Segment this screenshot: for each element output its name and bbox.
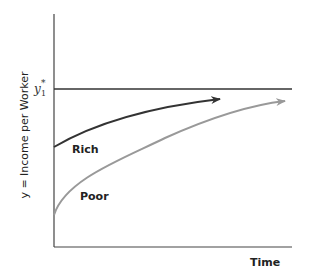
rich-label: Rich bbox=[72, 143, 99, 156]
poor-label: Poor bbox=[80, 190, 109, 203]
x-axis-label: Time bbox=[250, 256, 280, 269]
svg-text:1: 1 bbox=[41, 89, 46, 98]
rich-curve bbox=[54, 99, 220, 147]
y-axis-label: y = Income per Worker bbox=[18, 71, 31, 199]
svg-text:*: * bbox=[41, 78, 46, 88]
svg-text:y: y bbox=[33, 82, 41, 96]
convergence-chart: Rich Poor Time y = Income per Worker y 1… bbox=[0, 0, 312, 272]
steady-state-label: y 1 * bbox=[33, 78, 46, 98]
